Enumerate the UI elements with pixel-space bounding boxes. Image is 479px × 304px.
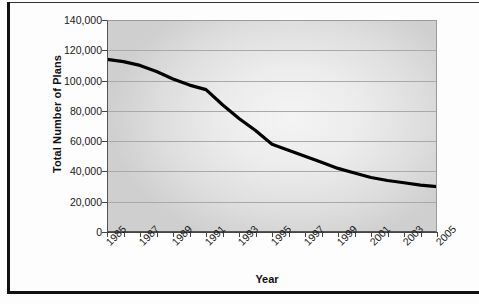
chart-figure: Total Number of Plans 020,00040,00060,00…	[0, 0, 479, 304]
y-axis-tick-label: 80,000	[28, 106, 102, 116]
y-axis-tick-label: 40,000	[28, 166, 102, 176]
y-axis-tick-label: 20,000	[28, 197, 102, 207]
y-axis-tick-label: 100,000	[28, 76, 102, 86]
y-axis-tick-labels: 020,00040,00060,00080,000100,000120,0001…	[24, 0, 102, 304]
x-axis-tick-label: 2005	[434, 223, 458, 247]
plot-area	[107, 20, 437, 232]
y-axis-tick-label: 120,000	[28, 45, 102, 55]
y-axis-tick-label: 60,000	[28, 136, 102, 146]
series-polyline	[107, 59, 437, 186]
figure-border-left	[7, 2, 10, 294]
line-series	[107, 20, 437, 232]
y-axis-tick-label: 140,000	[28, 15, 102, 25]
y-axis-tick-label: 0	[28, 227, 102, 237]
x-axis-title: Year	[197, 273, 337, 285]
